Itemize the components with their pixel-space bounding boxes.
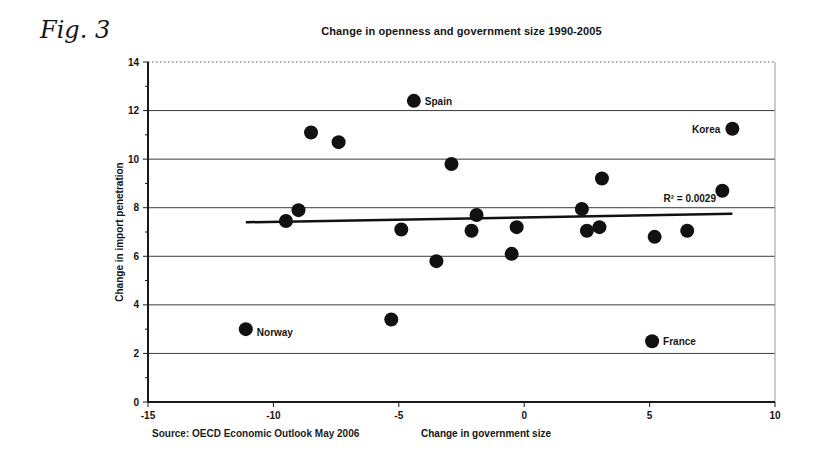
- data-point: [510, 220, 524, 234]
- y-axis-label: Change in import penetration: [114, 162, 125, 301]
- data-point: [470, 208, 484, 222]
- x-tick-label: -10: [266, 410, 281, 421]
- y-tick-label: 8: [133, 202, 139, 213]
- data-point: [304, 125, 318, 139]
- figure-page: Fig. 3 Change in openness and government…: [0, 0, 820, 468]
- data-point: [444, 157, 458, 171]
- data-point: [595, 172, 609, 186]
- y-tick-label: 12: [128, 105, 140, 116]
- trend-line: [246, 214, 733, 223]
- x-tick-label: 0: [521, 410, 527, 421]
- data-point: [592, 220, 606, 234]
- data-point: [394, 223, 408, 237]
- x-tick-label: 10: [769, 410, 781, 421]
- point-label-korea: Korea: [692, 124, 721, 135]
- point-label-france: France: [663, 336, 696, 347]
- data-point: [332, 135, 346, 149]
- data-point: [291, 203, 305, 217]
- data-point: [575, 202, 589, 216]
- x-axis-label: Change in government size: [421, 428, 551, 439]
- data-point: [384, 312, 398, 326]
- x-tick-label: 5: [647, 410, 653, 421]
- data-point: [465, 224, 479, 238]
- data-point: [407, 94, 421, 108]
- y-tick-label: 6: [133, 251, 139, 262]
- data-point: [645, 334, 659, 348]
- y-tick-label: 14: [128, 57, 140, 68]
- x-tick-label: -5: [394, 410, 403, 421]
- data-point: [680, 224, 694, 238]
- data-point: [580, 224, 594, 238]
- point-label-norway: Norway: [257, 327, 294, 338]
- r-squared-label: R² = 0.0029: [663, 193, 716, 204]
- point-label-spain: Spain: [425, 96, 452, 107]
- y-tick-label: 2: [133, 348, 139, 359]
- y-tick-label: 10: [128, 154, 140, 165]
- data-point: [725, 122, 739, 136]
- x-tick-label: -15: [141, 410, 156, 421]
- data-point: [279, 214, 293, 228]
- data-point: [648, 230, 662, 244]
- y-tick-label: 0: [133, 397, 139, 408]
- data-point: [239, 322, 253, 336]
- y-tick-label: 4: [133, 299, 139, 310]
- data-point: [429, 254, 443, 268]
- data-point: [505, 247, 519, 261]
- data-point: [715, 184, 729, 198]
- source-note: Source: OECD Economic Outlook May 2006: [152, 428, 359, 439]
